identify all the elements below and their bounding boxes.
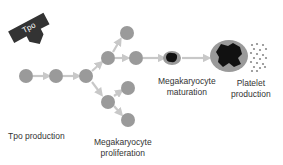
cell-icon xyxy=(101,95,115,109)
cell-icon xyxy=(129,51,143,65)
cell-icon xyxy=(101,51,115,65)
cell-icon xyxy=(19,69,33,83)
cell-icon xyxy=(79,69,93,83)
label-megakaryocyte-proliferation: Megakaryocyte proliferation xyxy=(94,137,152,159)
cell-icon xyxy=(49,69,63,83)
cell-icon xyxy=(121,113,135,127)
cell-icon xyxy=(121,81,135,95)
immature-megakaryocyte-icon xyxy=(163,51,181,65)
mature-megakaryocyte-icon xyxy=(210,40,248,72)
label-megakaryocyte-maturation: Megakaryocyte maturation xyxy=(158,76,216,98)
cell-icon xyxy=(120,26,134,40)
label-tpo-production: Tpo production xyxy=(8,131,65,142)
platelets-icon xyxy=(250,43,267,72)
label-platelet-production: Platelet production xyxy=(231,78,271,100)
tpo-arrow-icon: Tpo xyxy=(8,13,56,55)
